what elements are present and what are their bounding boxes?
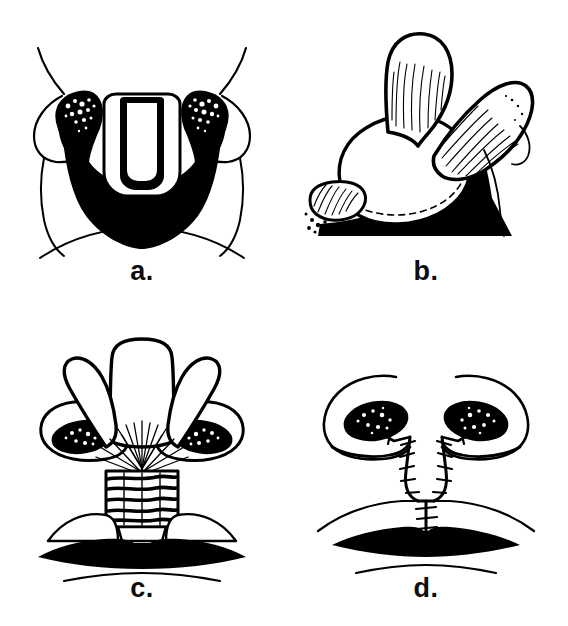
- figure-root: a.: [0, 0, 568, 626]
- nostril-left: [341, 397, 411, 446]
- columella-base: [118, 527, 166, 541]
- panel-label-d: d.: [284, 575, 568, 602]
- philtral-mound-left: [48, 514, 118, 541]
- philtral-contour-right: [426, 501, 534, 531]
- nostril-right: [441, 397, 511, 446]
- philtral-mound-right: [166, 514, 236, 541]
- alar-rim-right-outer: [220, 48, 246, 94]
- nostril-left: [56, 91, 102, 166]
- columella-flap-inner-white: [126, 102, 158, 182]
- figure-panel-c: c.: [0, 313, 284, 626]
- vermilion-lip: [332, 527, 520, 557]
- sidewall-left: [41, 158, 64, 256]
- panel-label-b: b.: [284, 258, 568, 285]
- panel-a-illustration: [0, 0, 284, 270]
- panel-label-a: a.: [0, 258, 284, 285]
- vermilion-lip: [38, 539, 246, 569]
- figure-panel-d: d.: [284, 313, 568, 626]
- nostril-right: [182, 91, 228, 166]
- figure-panel-b: b.: [284, 0, 568, 313]
- philtral-contour-left: [318, 501, 426, 531]
- lower-lip-line: [356, 565, 496, 573]
- figure-panel-a: a.: [0, 0, 284, 313]
- panel-b-illustration: [284, 0, 568, 270]
- sidewall-right: [220, 158, 243, 256]
- panel-d-illustration: [284, 313, 568, 583]
- panel-c-illustration: [0, 313, 284, 583]
- alar-rim-left-outer: [38, 48, 64, 94]
- panel-label-c: c.: [0, 575, 284, 602]
